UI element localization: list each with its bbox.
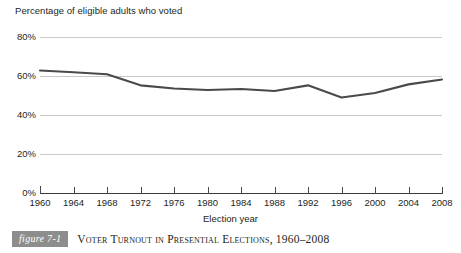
x-tick-label: 1980 — [191, 197, 225, 208]
figure-caption: figure 7-1 Voter Turnout in Presential E… — [12, 231, 329, 247]
figure-number-badge: figure 7-1 — [12, 231, 68, 247]
x-tick-label: 2000 — [358, 197, 392, 208]
x-tick-mark — [241, 187, 242, 194]
x-tick-label: 2004 — [392, 197, 426, 208]
x-tick-mark — [141, 187, 142, 194]
x-tick-mark — [342, 187, 343, 194]
figure-caption-text: Voter Turnout in Presential Elections, 1… — [77, 233, 329, 245]
x-tick-mark — [74, 187, 75, 194]
x-axis-title: Election year — [0, 213, 461, 224]
x-tick-label: 1996 — [325, 197, 359, 208]
x-tick-mark — [275, 187, 276, 194]
x-tick-mark — [40, 187, 41, 194]
x-tick-mark — [174, 187, 175, 194]
x-tick-mark — [409, 187, 410, 194]
x-tick-label: 1976 — [157, 197, 191, 208]
x-tick-label: 1972 — [124, 197, 158, 208]
x-tick-label: 1984 — [224, 197, 258, 208]
x-tick-label: 1964 — [57, 197, 91, 208]
x-tick-label: 1992 — [291, 197, 325, 208]
x-tick-mark — [442, 187, 443, 194]
x-tick-mark — [208, 187, 209, 194]
x-tick-label: 1988 — [258, 197, 292, 208]
x-tick-label: 2008 — [425, 197, 459, 208]
x-tick-mark — [308, 187, 309, 194]
x-tick-mark — [107, 187, 108, 194]
figure-container: Percentage of eligible adults who voted … — [0, 0, 461, 253]
x-tick-label: 1960 — [23, 197, 57, 208]
x-tick-label: 1968 — [90, 197, 124, 208]
x-tick-mark — [375, 187, 376, 194]
